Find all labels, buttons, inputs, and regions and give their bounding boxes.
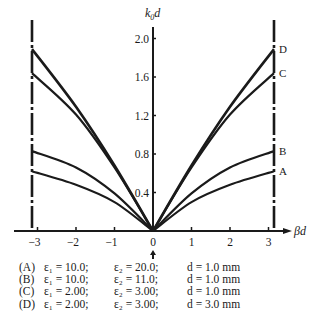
legend-key: (B)	[19, 273, 44, 285]
x-tick-label: −3	[28, 236, 40, 248]
x-axis-arrow-icon	[283, 228, 292, 234]
legend-row-a: (A) ε₁ = 10.0; ε₂ = 20.0; d = 1.0 mm	[19, 261, 240, 273]
y-axis-label: k0d	[145, 6, 161, 22]
curve-label-a: A	[279, 165, 287, 177]
x-tick-label: −2	[67, 236, 79, 248]
x-tick-label: 3	[266, 236, 272, 248]
curve-label-d: D	[279, 43, 287, 55]
legend-thickness: d = 3.0 mm	[187, 298, 240, 310]
legend-epsilon1: ε₁ = 10.0;	[44, 261, 114, 273]
axes	[14, 27, 292, 234]
curve-label-b: B	[279, 145, 286, 157]
y-tick-label: 0.4	[135, 187, 150, 199]
x-tick-label: 0	[150, 236, 156, 248]
y-tick-label: 0.8	[135, 148, 150, 160]
x-tick-label: 1	[189, 236, 195, 248]
axis-labels: −3−2−101230.40.81.21.62.0ABCDk0dβd	[28, 6, 307, 259]
legend-key: (A)	[19, 261, 44, 273]
legend-epsilon2: ε₂ = 3.00;	[114, 285, 187, 297]
legend-epsilon1: ε₁ = 2.00;	[44, 285, 114, 297]
legend-thickness: d = 1.0 mm	[187, 273, 240, 285]
origin-arrow-icon	[150, 250, 156, 259]
legend-thickness: d = 1.0 mm	[187, 285, 240, 297]
legend-epsilon2: ε₂ = 20.0;	[114, 261, 187, 273]
legend-epsilon1: ε₁ = 10.0;	[44, 273, 114, 285]
y-tick-label: 1.6	[135, 71, 150, 83]
legend-row-d: (D) ε₁ = 2.00; ε₂ = 3.00; d = 3.0 mm	[19, 298, 240, 310]
y-tick-label: 2.0	[135, 33, 150, 45]
x-tick-label: −1	[105, 236, 117, 248]
legend-epsilon1: ε₁ = 2.00;	[44, 298, 114, 310]
legend-thickness: d = 1.0 mm	[187, 261, 240, 273]
legend-epsilon2: ε₂ = 3.00;	[114, 298, 187, 310]
x-axis-label: βd	[293, 224, 307, 238]
legend-row-b: (B) ε₁ = 10.0; ε₂ = 11.0; d = 1.0 mm	[19, 273, 240, 285]
dispersion-chart: −3−2−101230.40.81.21.62.0ABCDk0dβd	[0, 0, 318, 260]
legend-row-c: (C) ε₁ = 2.00; ε₂ = 3.00; d = 1.0 mm	[19, 285, 240, 297]
x-tick-label: 2	[227, 236, 233, 248]
legend-key: (C)	[19, 285, 44, 297]
legend-epsilon2: ε₂ = 11.0;	[114, 273, 187, 285]
legend-key: (D)	[19, 298, 44, 310]
y-tick-label: 1.2	[135, 110, 150, 122]
legend: (A) ε₁ = 10.0; ε₂ = 20.0; d = 1.0 mm (B)…	[19, 261, 240, 310]
curve-label-c: C	[279, 67, 286, 79]
